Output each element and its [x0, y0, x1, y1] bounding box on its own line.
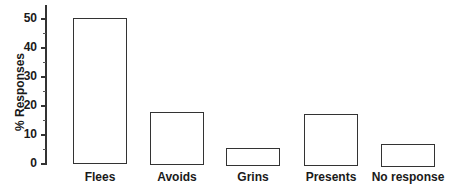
x-tick-label: Grins: [208, 170, 298, 184]
y-minor-tick: [43, 91, 46, 92]
bar-grins: [226, 148, 280, 166]
y-axis-line: [45, 5, 47, 165]
y-tick-label: 40: [6, 41, 37, 53]
bar-flees: [73, 18, 127, 164]
x-tick-label: No response: [363, 170, 449, 184]
y-minor-tick: [43, 120, 46, 121]
y-tick: [41, 76, 46, 78]
y-minor-tick: [43, 149, 46, 150]
y-tick: [41, 163, 46, 165]
bar-no-response: [381, 144, 435, 167]
y-tick-label: 20: [6, 99, 37, 111]
y-tick-label: 0: [6, 157, 37, 169]
y-tick-label: 10: [6, 128, 37, 140]
bar-presents: [304, 114, 358, 166]
y-tick-label: 30: [6, 70, 37, 82]
y-tick: [41, 18, 46, 20]
y-tick: [41, 47, 46, 49]
y-tick-label: 50: [6, 12, 37, 24]
y-tick: [41, 105, 46, 107]
y-minor-tick: [43, 33, 46, 34]
bar-avoids: [150, 112, 204, 165]
y-tick: [41, 134, 46, 136]
y-minor-tick: [43, 62, 46, 63]
